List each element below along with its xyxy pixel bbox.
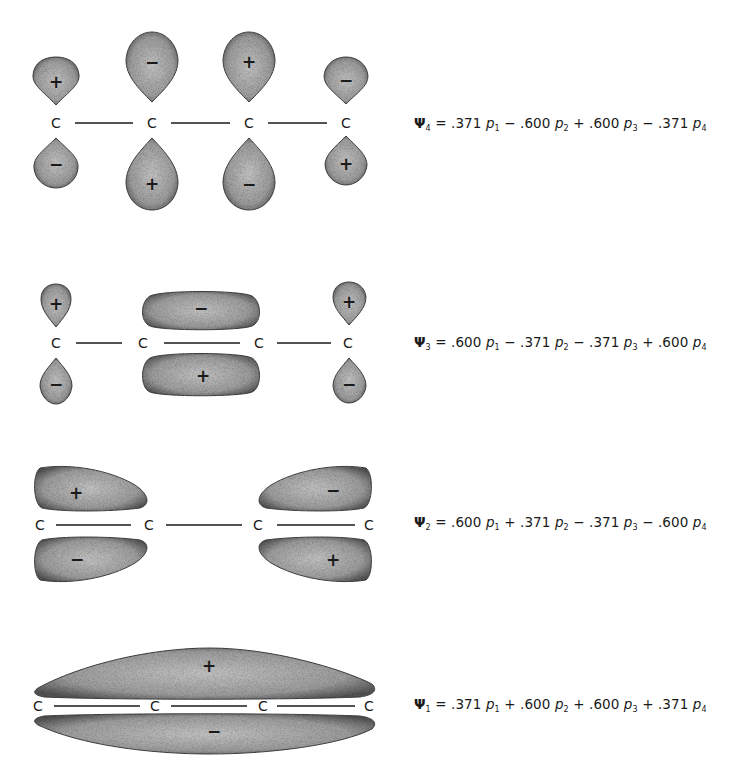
psi4-orbital-drawing: + − + − − + − + C C C C <box>33 32 368 210</box>
term-p: p <box>555 334 564 350</box>
term-op: + <box>504 696 515 712</box>
term-coef: .371 <box>520 514 550 530</box>
term-p: p <box>693 514 702 530</box>
term-sub: 2 <box>564 124 569 133</box>
psi4-atom-c1: C <box>51 115 61 131</box>
psi2-equation: Ψ2 = .600 p1 + .371 p2 − .371 p3 − .600 … <box>414 514 707 532</box>
psi4-sign-4-upper: − <box>339 70 353 90</box>
psi-symbol: Ψ <box>414 514 426 530</box>
term-coef: .371 <box>451 696 481 712</box>
term-op: + <box>642 696 653 712</box>
psi2-atom-c2: C <box>144 517 154 533</box>
psi1-lobe-lower <box>35 714 375 754</box>
term-p: p <box>693 334 702 350</box>
term-p: p <box>693 115 702 131</box>
psi3-sign-1-lower: − <box>49 374 63 394</box>
psi2-atom-c4: C <box>364 517 374 533</box>
psi4-atom-c2: C <box>147 115 157 131</box>
term-sub: 1 <box>495 343 500 352</box>
psi2-lobe-left-upper <box>35 466 147 511</box>
term-sub: 3 <box>633 705 638 714</box>
term-sub: 4 <box>702 705 707 714</box>
term-op: = <box>435 115 446 131</box>
term-coef: .371 <box>589 334 619 350</box>
psi2-lobe-right-lower <box>259 537 371 582</box>
term-p: p <box>486 514 495 530</box>
psi1-equation: Ψ1 = .371 p1 + .600 p2 + .600 p3 + .371 … <box>414 696 707 714</box>
term-coef: .371 <box>520 334 550 350</box>
psi4-sign-2-upper: − <box>145 52 159 72</box>
term-coef: .600 <box>520 696 550 712</box>
psi1-orbital-drawing: + − C C C C <box>33 648 375 754</box>
psi3-orbital-drawing: + − + − + − C C C C <box>40 282 366 404</box>
term-op: − <box>504 334 515 350</box>
term-op: + <box>504 514 515 530</box>
psi4-sign-3-lower: − <box>242 174 256 194</box>
term-coef: .371 <box>589 514 619 530</box>
term-coef: .600 <box>589 696 619 712</box>
term-coef: .371 <box>658 696 688 712</box>
psi2-sign-left-lower: − <box>70 549 84 569</box>
psi-index: 2 <box>426 523 431 532</box>
psi1-atom-c4: C <box>364 698 374 714</box>
psi-symbol: Ψ <box>414 334 426 350</box>
term-sub: 4 <box>702 343 707 352</box>
term-op: − <box>642 514 653 530</box>
psi1-atom-c2: C <box>150 698 160 714</box>
psi3-sign-middle-lower: + <box>196 366 210 386</box>
term-p: p <box>555 514 564 530</box>
term-coef: .371 <box>451 115 481 131</box>
term-sub: 2 <box>564 705 569 714</box>
term-sub: 4 <box>702 523 707 532</box>
term-coef: .600 <box>658 514 688 530</box>
term-op: = <box>435 696 446 712</box>
term-op: + <box>573 696 584 712</box>
psi3-atom-c2: C <box>138 335 148 351</box>
psi2-atom-c1: C <box>35 517 45 533</box>
term-p: p <box>486 696 495 712</box>
term-sub: 2 <box>564 523 569 532</box>
term-sub: 4 <box>702 124 707 133</box>
psi4-sign-3-upper: + <box>242 52 256 72</box>
psi2-atom-c3: C <box>253 517 263 533</box>
term-op: = <box>435 514 446 530</box>
term-coef: .600 <box>589 115 619 131</box>
term-coef: .371 <box>658 115 688 131</box>
psi-index: 1 <box>426 705 431 714</box>
psi4-atom-c3: C <box>244 115 254 131</box>
psi3-sign-1-upper: + <box>49 294 63 314</box>
term-p: p <box>555 115 564 131</box>
term-p: p <box>486 334 495 350</box>
term-p: p <box>624 115 633 131</box>
term-op: − <box>642 115 653 131</box>
term-p: p <box>486 115 495 131</box>
psi3-atom-c1: C <box>51 335 61 351</box>
psi3-equation: Ψ3 = .600 p1 − .371 p2 − .371 p3 + .600 … <box>414 334 707 352</box>
psi3-sign-middle-upper: − <box>194 298 208 318</box>
term-coef: .600 <box>451 514 481 530</box>
psi1-sign-lower: − <box>207 721 221 741</box>
psi2-orbital-drawing: + − − + C C C C <box>35 466 375 581</box>
psi1-atom-c3: C <box>258 698 268 714</box>
term-sub: 2 <box>564 343 569 352</box>
term-op: = <box>435 334 446 350</box>
psi4-atom-c4: C <box>341 115 351 131</box>
term-p: p <box>624 514 633 530</box>
term-p: p <box>624 696 633 712</box>
psi4-equation: Ψ4 = .371 p1 − .600 p2 + .600 p3 − .371 … <box>414 115 707 133</box>
term-op: − <box>573 334 584 350</box>
term-op: − <box>504 115 515 131</box>
term-op: + <box>573 115 584 131</box>
term-sub: 1 <box>495 523 500 532</box>
term-op: − <box>573 514 584 530</box>
psi-symbol: Ψ <box>414 115 426 131</box>
psi-index: 3 <box>426 343 431 352</box>
term-sub: 3 <box>633 343 638 352</box>
psi1-sign-upper: + <box>202 656 216 676</box>
term-sub: 1 <box>495 705 500 714</box>
psi3-sign-4-lower: − <box>342 374 356 394</box>
term-p: p <box>555 696 564 712</box>
psi4-sign-1-upper: + <box>49 72 63 92</box>
psi3-atom-c4: C <box>343 335 353 351</box>
term-coef: .600 <box>451 334 481 350</box>
